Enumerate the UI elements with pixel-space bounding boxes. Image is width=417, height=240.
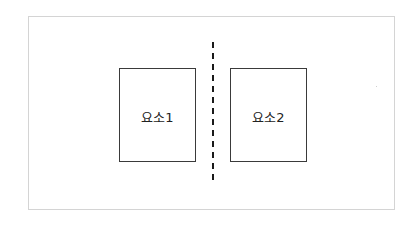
element-label-1: 요소1 <box>141 107 173 126</box>
artifact-dot <box>376 86 377 87</box>
element-label-2: 요소2 <box>252 107 284 126</box>
element-box-1: 요소1 <box>119 68 196 162</box>
dashed-divider <box>212 42 214 185</box>
element-box-2: 요소2 <box>230 68 307 162</box>
